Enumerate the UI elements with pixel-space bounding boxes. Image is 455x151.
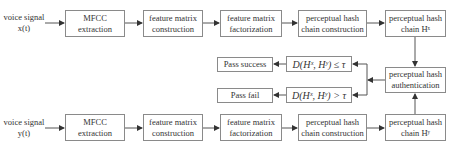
perceptual-hash-authentication-box: perceptual hash authentication xyxy=(385,67,446,93)
pass-success-box: Pass success xyxy=(217,57,273,72)
feature-matrix-construction-box-x: feature matrix construction xyxy=(143,10,203,37)
condition-pass-box: D(Hˣ, Hʸ) ≤ τ xyxy=(286,56,352,72)
input-voice-signal-x: voice signal x(t) xyxy=(0,12,48,34)
feature-matrix-construction-box-y: feature matrix construction xyxy=(143,114,203,141)
pass-fail-box: Pass fail xyxy=(217,88,273,103)
perceptual-hash-chain-construction-box-y: perceptual hash chain construction xyxy=(298,114,367,141)
perceptual-hash-chain-hx-box: perceptual hash chain Hˣ xyxy=(385,10,446,37)
mfcc-extraction-box-x: MFCC extraction xyxy=(65,10,125,37)
feature-matrix-factorization-box-x: feature matrix factorization xyxy=(220,10,282,37)
mfcc-extraction-box-y: MFCC extraction xyxy=(65,114,125,141)
perceptual-hash-authentication-diagram: voice signal x(t) MFCC extraction featur… xyxy=(0,0,455,151)
input-voice-signal-y: voice signal y(t) xyxy=(0,117,48,139)
feature-matrix-factorization-box-y: feature matrix factorization xyxy=(220,114,282,141)
condition-fail-box: D(Hˣ, Hʸ) > τ xyxy=(286,87,352,103)
perceptual-hash-chain-hy-box: perceptual hash chain Hʸ xyxy=(385,114,446,141)
perceptual-hash-chain-construction-box-x: perceptual hash chain construction xyxy=(298,10,367,37)
